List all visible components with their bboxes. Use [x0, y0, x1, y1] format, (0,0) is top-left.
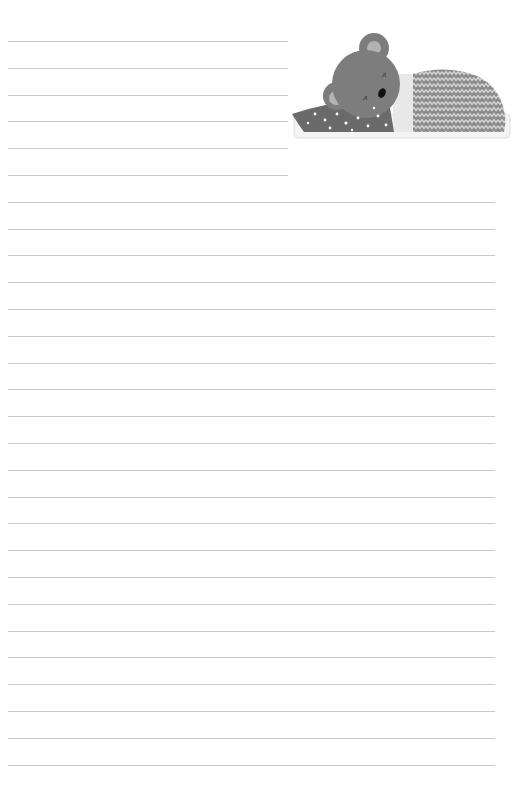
ruled-line [8, 255, 495, 256]
ruled-line [8, 577, 495, 578]
ruled-line [8, 497, 495, 498]
ruled-line [8, 470, 495, 471]
ruled-line [8, 523, 495, 524]
ruled-line [8, 604, 495, 605]
ruled-line [8, 282, 495, 283]
ruled-line [8, 95, 288, 96]
ruled-line [8, 121, 288, 122]
ruled-line [8, 336, 495, 337]
ruled-line [8, 416, 495, 417]
ruled-line [8, 363, 495, 364]
ruled-line [8, 68, 288, 69]
ruled-line [8, 443, 495, 444]
ruled-line [8, 550, 495, 551]
ruled-line [8, 765, 495, 766]
ruled-line [8, 175, 288, 176]
ruled-line [8, 229, 495, 230]
ruled-line [8, 148, 288, 149]
ruled-line [8, 389, 495, 390]
ruled-line [8, 657, 495, 658]
ruled-line [8, 711, 495, 712]
ruled-line [8, 631, 495, 632]
ruled-line [8, 684, 495, 685]
ruled-line [8, 41, 288, 42]
ruled-line [8, 738, 495, 739]
ruled-line [8, 202, 495, 203]
sleeping-bear-icon [290, 28, 515, 146]
ruled-line [8, 309, 495, 310]
